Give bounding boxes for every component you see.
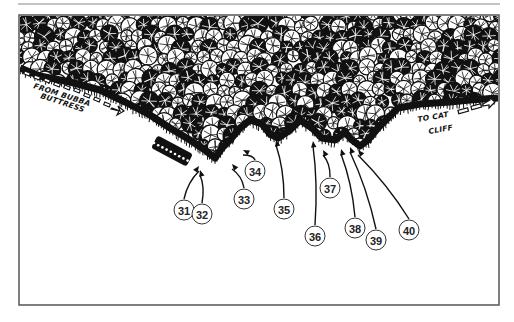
- arrowhead-icon: [340, 149, 345, 156]
- arrowhead-icon: [350, 147, 355, 154]
- route-marker-37: 37: [320, 150, 340, 198]
- route-number: 39: [370, 235, 382, 247]
- route-number: 33: [238, 194, 250, 206]
- arrowhead-icon: [199, 170, 204, 177]
- label-to-line2: CLIFF: [428, 123, 455, 136]
- route-number: 35: [278, 204, 290, 216]
- route-number: 40: [403, 225, 415, 237]
- route-leader-line: [200, 175, 203, 203]
- route-marker-38: 38: [340, 149, 365, 238]
- route-number: 31: [178, 205, 190, 217]
- route-leader-line: [232, 169, 244, 188]
- route-leader-line: [243, 155, 255, 160]
- route-leader-line: [276, 145, 284, 198]
- route-leader-line: [350, 152, 376, 229]
- arrowhead-icon: [311, 141, 316, 148]
- arrowhead-icon: [323, 150, 329, 157]
- route-number: 36: [309, 231, 321, 243]
- route-number: 34: [249, 166, 262, 178]
- route-leader-line: [323, 155, 330, 177]
- route-marker-35: 35: [274, 140, 294, 219]
- route-number: 37: [324, 183, 336, 195]
- route-marker-34: 34: [243, 150, 265, 181]
- route-number: 38: [349, 223, 361, 235]
- trail-dash: [471, 104, 482, 110]
- route-leader-line: [184, 171, 199, 199]
- label-to-line1: TO CAT: [417, 110, 450, 124]
- topo-diagram: FROM BUBBA BUTTRESS TO CAT CLIFF 3132333…: [0, 0, 514, 322]
- route-leader-line: [313, 146, 316, 225]
- route-number: 32: [196, 209, 208, 221]
- arrow-right-icon: [111, 106, 124, 115]
- route-leader-line: [341, 154, 355, 217]
- route-leader-line: [358, 155, 409, 219]
- route-marker-32: 32: [192, 170, 212, 224]
